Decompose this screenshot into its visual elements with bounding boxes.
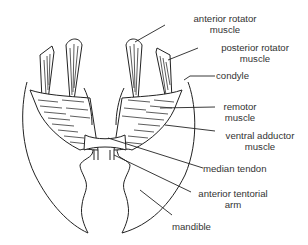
label-posterior-rotator-muscle: posterior rotator muscle <box>200 42 308 64</box>
label-line-2: arm <box>188 199 278 210</box>
right-posterior-rotator <box>156 48 172 100</box>
label-line-2: muscle <box>170 24 280 35</box>
label-line-2: muscle <box>200 53 308 64</box>
right-anterior-rotator <box>126 39 142 100</box>
label-line-2: muscle <box>210 141 308 152</box>
label-ventral-adductor-muscle: ventral adductor muscle <box>210 130 308 152</box>
label-line-1: posterior rotator <box>200 42 308 53</box>
label-line-1: remotor <box>210 101 270 112</box>
label-line-1: median tendon <box>203 163 283 174</box>
label-line-1: anterior tentorial <box>188 188 278 199</box>
label-line-2: muscle <box>210 112 270 123</box>
label-line-1: ventral adductor <box>210 130 308 141</box>
label-anterior-rotator-muscle: anterior rotator muscle <box>170 13 280 35</box>
label-condyle: condyle <box>216 70 266 81</box>
label-line-1: mandible <box>172 221 232 232</box>
label-anterior-tentorial-arm: anterior tentorial arm <box>188 188 278 210</box>
left-posterior-rotator <box>40 46 54 100</box>
left-anterior-rotator <box>66 39 82 100</box>
label-line-1: anterior rotator <box>170 13 280 24</box>
label-remotor-muscle: remotor muscle <box>210 101 270 123</box>
label-median-tendon: median tendon <box>203 163 283 174</box>
label-mandible: mandible <box>172 221 232 232</box>
label-line-1: condyle <box>216 70 266 81</box>
